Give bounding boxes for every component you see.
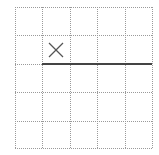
dotted-grid [15,7,153,149]
grid-diagram [0,0,159,155]
x-mark-icon [49,43,63,57]
